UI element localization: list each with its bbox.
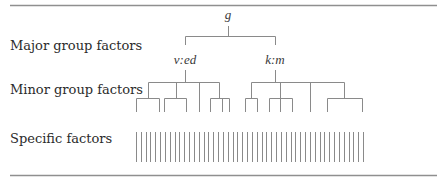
row-label-minor: Minor group factors	[10, 82, 143, 97]
factor-hierarchy-diagram: Major group factors Minor group factors …	[0, 0, 448, 181]
node-g: g	[225, 7, 232, 23]
row-label-specific: Specific factors	[10, 131, 112, 146]
node-v-ed: v:ed	[174, 52, 196, 68]
row-label-major: Major group factors	[10, 38, 142, 53]
node-k-m: k:m	[265, 52, 285, 68]
